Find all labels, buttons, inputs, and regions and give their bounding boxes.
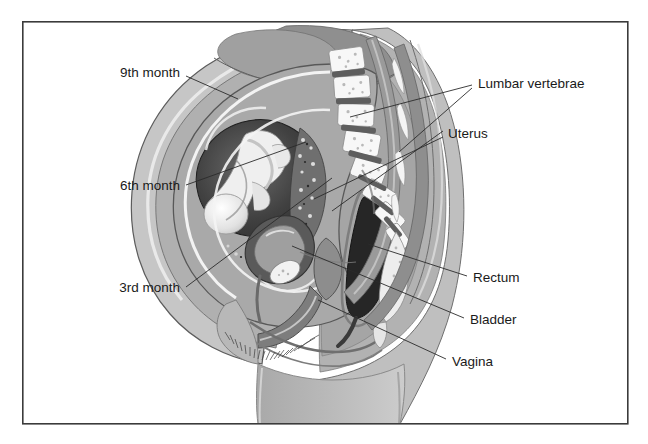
- label-bladder: Bladder: [470, 312, 517, 327]
- label-vagina: Vagina: [452, 354, 494, 369]
- label-3rd-month: 3rd month: [119, 280, 180, 295]
- label-lumbar-vertebrae: Lumbar vertebrae: [478, 76, 585, 91]
- label-uterus: Uterus: [448, 126, 488, 141]
- anatomy-illustration: 9th month 6th month 3rd month Lumbar ver…: [0, 0, 648, 444]
- anatomy-figure: 9th month 6th month 3rd month Lumbar ver…: [0, 0, 648, 444]
- label-9th-month: 9th month: [120, 65, 180, 80]
- label-rectum: Rectum: [473, 270, 520, 285]
- fetus-head: [204, 194, 248, 234]
- label-6th-month: 6th month: [120, 178, 180, 193]
